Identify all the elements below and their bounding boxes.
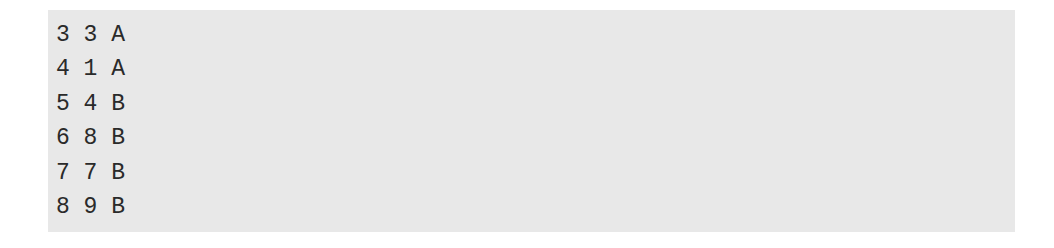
code-line: 4 1 A [56, 52, 1015, 86]
code-line: 3 3 A [56, 18, 1015, 52]
code-block: 3 3 A 4 1 A 5 4 B 6 8 B 7 7 B 8 9 B [48, 10, 1015, 232]
code-line: 5 4 B [56, 87, 1015, 121]
code-line: 6 8 B [56, 121, 1015, 155]
code-line: 8 9 B [56, 190, 1015, 224]
code-line: 7 7 B [56, 156, 1015, 190]
